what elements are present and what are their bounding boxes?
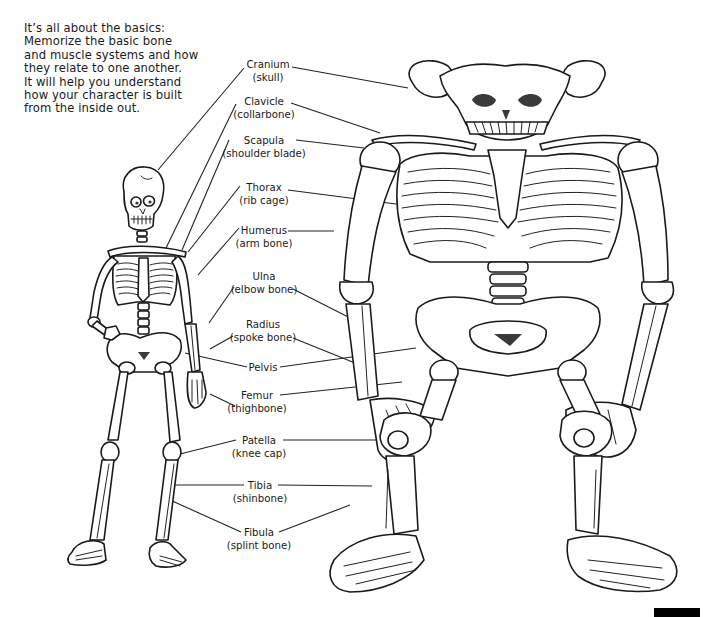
label-ulna: Ulna (elbow bone) [231,270,298,296]
scale-bar [654,608,700,617]
label-ulna-name: Ulna [231,270,298,283]
label-thorax-name: Thorax [239,181,288,194]
label-femur: Femur (thighbone) [227,389,287,415]
label-scapula-name: Scapula [222,134,306,147]
label-pelvis: Pelvis [248,361,277,374]
label-cranium: Cranium (skull) [246,58,289,84]
anatomy-illustration [0,0,720,617]
label-humerus-name: Humerus [236,224,293,237]
label-ulna-common: (elbow bone) [231,283,298,296]
label-pelvis-name: Pelvis [248,361,277,374]
label-patella-common: (knee cap) [232,447,286,460]
label-femur-name: Femur [227,389,287,402]
label-thorax: Thorax (rib cage) [239,181,288,207]
label-patella: Patella (knee cap) [232,434,286,460]
label-fibula: Fibula (splint bone) [227,526,292,552]
label-humerus-common: (arm bone) [236,237,293,250]
label-radius-common: (spoke bone) [230,331,296,344]
monster-skeleton [330,61,677,592]
label-tibia-name: Tibia [233,479,287,492]
label-fibula-name: Fibula [227,526,292,539]
label-clavicle: Clavicle (collarbone) [233,95,294,121]
label-cranium-common: (skull) [246,71,289,84]
label-clavicle-common: (collarbone) [233,108,294,121]
label-radius-name: Radius [230,318,296,331]
label-radius: Radius (spoke bone) [230,318,296,344]
label-clavicle-name: Clavicle [233,95,294,108]
label-humerus: Humerus (arm bone) [236,224,293,250]
label-tibia: Tibia (shinbone) [233,479,287,505]
label-thorax-common: (rib cage) [239,194,288,207]
label-scapula: Scapula (shoulder blade) [222,134,306,160]
label-scapula-common: (shoulder blade) [222,147,306,160]
label-femur-common: (thighbone) [227,402,287,415]
label-cranium-name: Cranium [246,58,289,71]
label-fibula-common: (splint bone) [227,539,292,552]
label-tibia-common: (shinbone) [233,492,287,505]
label-patella-name: Patella [232,434,286,447]
